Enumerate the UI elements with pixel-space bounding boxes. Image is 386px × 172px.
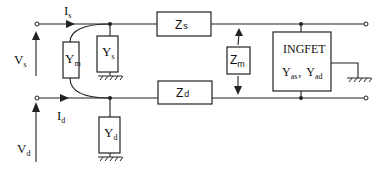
- ys-ground-icon: [98, 76, 123, 80]
- yd-admittance: Yd: [98, 98, 123, 161]
- source-input-terminal: [35, 22, 39, 26]
- is-label: Is: [64, 3, 71, 20]
- drain-current-arrow-icon: [60, 94, 69, 102]
- source-current-arrow-icon: [66, 20, 75, 28]
- vs-label: Vs: [14, 52, 27, 69]
- vs-voltage-arrow: Vs: [14, 31, 40, 76]
- drain-input-terminal: [35, 96, 39, 100]
- ingfet-title: INGFET: [283, 42, 326, 56]
- zs-impedance: Zs: [157, 12, 211, 36]
- zm-up-arrow-icon: [235, 28, 243, 36]
- zm-down-arrow-icon: [234, 86, 242, 95]
- ingfet-block: INGFET Yas,Yad: [273, 24, 372, 98]
- circuit-diagram: Vs Is Vd Id Ym Ys Yd: [0, 0, 386, 172]
- ys-admittance: Ys: [97, 24, 123, 80]
- vd-arrowhead-icon: [32, 102, 40, 112]
- zs-label: Zs: [175, 18, 188, 32]
- vs-arrowhead-icon: [32, 31, 40, 40]
- zm-impedance: Zm: [227, 28, 250, 95]
- vd-voltage-arrow: Vd: [17, 102, 40, 162]
- yd-ground-icon: [98, 157, 123, 161]
- id-label: Id: [57, 108, 65, 125]
- drain-output-terminal: [364, 96, 368, 100]
- ingfet-ground-icon: [347, 78, 372, 82]
- zd-impedance: Zd: [158, 81, 212, 104]
- zd-label: Zd: [176, 86, 189, 100]
- source-output-terminal: [364, 22, 368, 26]
- vd-label: Vd: [17, 141, 30, 158]
